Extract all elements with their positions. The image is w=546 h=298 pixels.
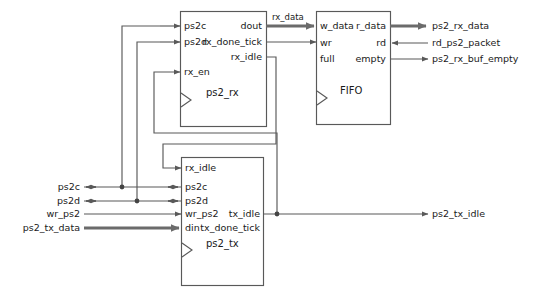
port-label-ps2tx-tx-idle: tx_idle [183,209,260,219]
port-label-ps2tx-tx-done-tick: tx_done_tick [183,223,260,233]
external-output-label-ps2-tx-idle: ps2_tx_idle [432,209,485,219]
port-label-ps2tx-ps2d: ps2d [185,196,208,206]
port-label-fifo-r-data: r_data [320,21,386,31]
port-label-ps2tx-rx-idle: rx_idle [185,163,216,173]
port-label-ps2rx-rx-en: rx_en [184,67,210,77]
external-output-label-ps2-rx-data: ps2_rx_data [432,21,489,31]
junction-dot-ps2c [120,185,125,190]
external-input-label-ps2-tx-data: ps2_tx_data [0,223,80,233]
ps2-block-diagram: ps2c ps2d rx_en dout rx_done_tick rx_idl… [0,0,546,298]
block-name-fifo: FIFO [340,86,362,96]
junction-dot-ps2d [135,199,140,204]
port-label-fifo-empty: empty [320,54,386,64]
external-input-label-ps2d: ps2d [0,196,80,206]
port-label-ps2tx-ps2c: ps2c [185,182,207,192]
wire-ps2d-riser [137,42,160,201]
clock-triangle-ps2-tx [182,243,192,257]
external-input-label-ps2c: ps2c [0,182,80,192]
wire-label-rx-data: rx_data [272,13,304,22]
port-label-ps2rx-rx-done-tick: rx_done_tick [186,37,262,47]
block-name-ps2-tx: ps2_tx [206,239,239,249]
external-output-label-ps2-rx-buf-empty: ps2_rx_buf_empty [432,54,518,64]
block-name-ps2-rx: ps2_rx [206,88,239,98]
external-output-label-rd-ps2-packet: rd_ps2_packet [432,38,500,48]
port-label-ps2rx-dout: dout [186,21,262,31]
port-label-fifo-rd: rd [320,38,386,48]
external-input-label-wr-ps2: wr_ps2 [0,209,80,219]
clock-triangle-ps2-rx [181,93,191,107]
junction-dot-tx-idle [275,212,280,217]
clock-triangle-fifo [317,91,327,105]
port-label-ps2rx-rx-idle: rx_idle [186,52,262,62]
